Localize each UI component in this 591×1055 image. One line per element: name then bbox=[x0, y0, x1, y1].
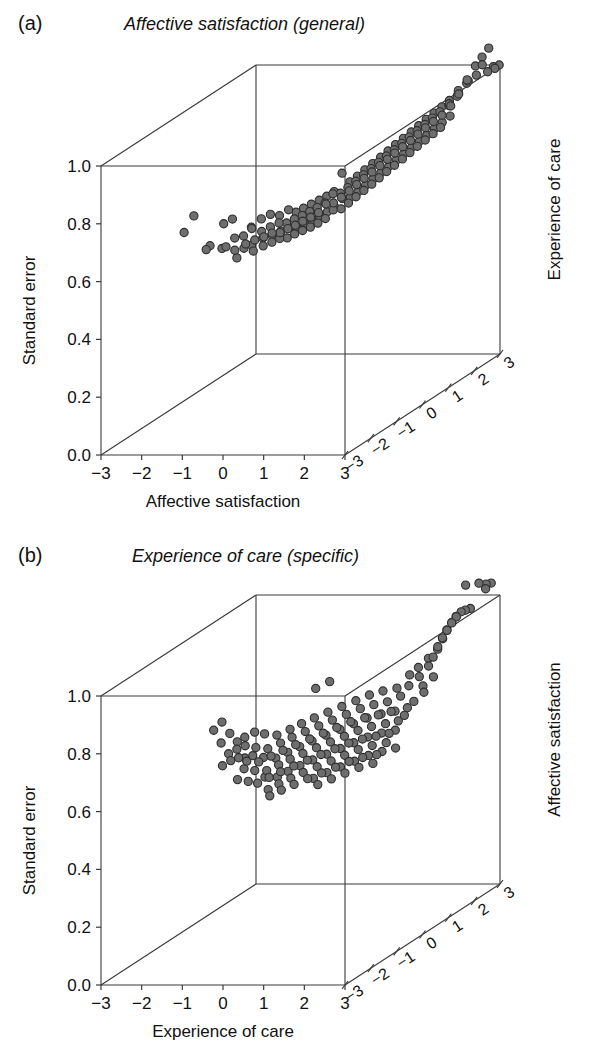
data-point bbox=[327, 775, 335, 783]
data-point bbox=[279, 746, 287, 754]
data-point bbox=[233, 776, 241, 784]
data-point bbox=[322, 200, 330, 208]
data-point bbox=[405, 682, 413, 690]
data-point bbox=[326, 677, 334, 685]
data-point bbox=[415, 672, 423, 680]
data-point bbox=[251, 766, 259, 774]
data-point bbox=[277, 768, 285, 776]
panel-a: (a) Affective satisfaction (general) −3−… bbox=[0, 0, 591, 520]
data-point bbox=[303, 756, 311, 764]
data-point bbox=[406, 149, 414, 157]
data-point bbox=[421, 124, 429, 132]
data-point bbox=[391, 744, 399, 752]
data-point bbox=[406, 671, 414, 679]
data-point bbox=[244, 777, 252, 785]
y-tick-label: 0.6 bbox=[67, 803, 91, 822]
data-point bbox=[383, 167, 391, 175]
data-point bbox=[399, 143, 407, 151]
data-point bbox=[360, 174, 368, 182]
data-point bbox=[429, 653, 437, 661]
data-point bbox=[286, 725, 294, 733]
data-point bbox=[379, 687, 387, 695]
x-tick-label: 1 bbox=[259, 464, 268, 483]
data-point bbox=[241, 742, 249, 750]
data-point bbox=[317, 750, 325, 758]
z-axis-title: Experience of care bbox=[545, 139, 564, 281]
data-point bbox=[318, 769, 326, 777]
data-point bbox=[338, 169, 346, 177]
data-point bbox=[472, 71, 480, 79]
data-point bbox=[314, 781, 322, 789]
data-point bbox=[354, 726, 362, 734]
data-point bbox=[304, 775, 312, 783]
x-tick-label: 2 bbox=[300, 464, 309, 483]
data-point bbox=[381, 720, 389, 728]
y-tick-label: 1.0 bbox=[67, 687, 91, 706]
data-point bbox=[358, 735, 366, 743]
data-point bbox=[210, 726, 218, 734]
y-tick-label: 0.6 bbox=[67, 273, 91, 292]
y-axis-title: Standard error bbox=[20, 255, 39, 365]
data-point bbox=[368, 180, 376, 188]
data-point bbox=[235, 754, 243, 762]
y-tick-label: 0.2 bbox=[67, 918, 91, 937]
z-tick-label: 3 bbox=[501, 883, 518, 902]
data-point bbox=[448, 619, 456, 627]
data-point bbox=[190, 212, 198, 220]
data-point bbox=[260, 233, 268, 241]
data-point bbox=[342, 710, 350, 718]
y-tick-label: 0.8 bbox=[67, 215, 91, 234]
data-point bbox=[484, 68, 492, 76]
data-point bbox=[354, 745, 362, 753]
data-point bbox=[218, 718, 226, 726]
data-point bbox=[400, 711, 408, 719]
data-point bbox=[359, 753, 367, 761]
x-tick-label: −3 bbox=[91, 464, 110, 483]
scatter3d-plot-b: −3−2−10123Experience of care0.00.20.40.6… bbox=[0, 520, 591, 1055]
data-point bbox=[393, 684, 401, 692]
data-point bbox=[284, 206, 292, 214]
data-point bbox=[347, 718, 355, 726]
data-point bbox=[372, 732, 380, 740]
data-point bbox=[438, 111, 446, 119]
data-point bbox=[231, 234, 239, 242]
data-point bbox=[403, 704, 411, 712]
data-point bbox=[376, 162, 384, 170]
data-point bbox=[455, 90, 463, 98]
data-point bbox=[259, 242, 267, 250]
data-point bbox=[356, 705, 364, 713]
data-point bbox=[382, 739, 390, 747]
data-point bbox=[429, 117, 437, 125]
x-tick-label: −3 bbox=[91, 994, 110, 1013]
data-point bbox=[341, 769, 349, 777]
data-point-group bbox=[210, 579, 496, 800]
data-point bbox=[329, 190, 337, 198]
data-point bbox=[298, 226, 306, 234]
data-point bbox=[360, 186, 368, 194]
data-point bbox=[252, 743, 260, 751]
data-point bbox=[443, 626, 451, 634]
data-point bbox=[220, 220, 228, 228]
data-point bbox=[268, 229, 276, 237]
data-point bbox=[345, 757, 353, 765]
data-point bbox=[352, 697, 360, 705]
data-point bbox=[385, 729, 393, 737]
data-point bbox=[352, 193, 360, 201]
x-axis-title: Experience of care bbox=[152, 1022, 294, 1041]
data-point bbox=[331, 745, 339, 753]
data-point bbox=[420, 688, 428, 696]
data-point bbox=[331, 763, 339, 771]
data-point bbox=[337, 205, 345, 213]
data-point bbox=[387, 707, 395, 715]
data-point bbox=[217, 739, 225, 747]
data-point bbox=[368, 168, 376, 176]
data-point bbox=[337, 193, 345, 201]
data-point bbox=[370, 701, 378, 709]
scatter3d-plot-a: −3−2−10123Affective satisfaction0.00.20.… bbox=[0, 0, 591, 520]
data-point bbox=[251, 728, 259, 736]
data-point bbox=[413, 142, 421, 150]
data-point bbox=[390, 161, 398, 169]
data-point bbox=[462, 581, 470, 589]
data-point bbox=[255, 758, 263, 766]
y-tick-label: 0.8 bbox=[67, 745, 91, 764]
